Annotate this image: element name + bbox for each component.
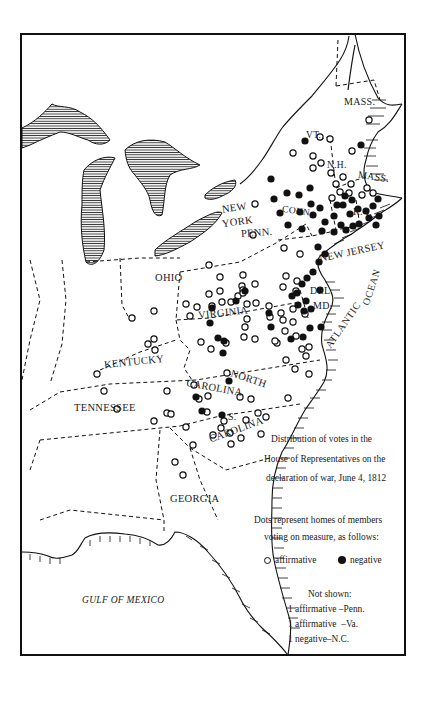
affirmative-vote-dot [359, 192, 365, 198]
negative-vote-dot [375, 212, 382, 219]
affirmative-vote-dot [219, 299, 225, 305]
affirmative-vote-dot [206, 262, 212, 268]
affirmative-vote-dot [283, 273, 289, 279]
label-vt: VT. [306, 131, 321, 141]
affirmative-vote-dot [297, 251, 303, 257]
affirmative-vote-dot [290, 319, 296, 325]
affirmative-vote-dot [248, 396, 254, 402]
affirmative-vote-dot [310, 165, 316, 171]
affirmative-vote-dot [172, 459, 178, 465]
legend-affirmative-label: affirmative [275, 555, 316, 565]
affirmative-vote-dot [238, 435, 244, 441]
legend-affirmative: affirmative [264, 555, 316, 565]
label-gulf-of-mexico: GULF OF MEXICO [82, 595, 164, 605]
negative-vote-dot [299, 333, 306, 340]
affirmative-vote-dot [244, 316, 250, 322]
affirmative-vote-dot [217, 288, 223, 294]
affirmative-vote-dot [198, 339, 204, 345]
label-mass-north: MASS. [344, 97, 375, 107]
affirmative-vote-dot [205, 393, 211, 399]
not-shown-item-3: 1 negative–N.C. [288, 634, 349, 644]
affirmative-vote-dot [306, 371, 312, 377]
caption-line-2: House of Representatives on the [264, 454, 385, 464]
caption-line-1: Distribution of votes in the [271, 434, 372, 444]
negative-vote-dot [298, 225, 305, 232]
affirmative-vote-dot [228, 441, 234, 447]
affirmative-vote-dot [318, 160, 324, 166]
affirmative-vote-dot [306, 344, 312, 350]
affirmative-vote-dot [94, 371, 100, 377]
not-shown-item-1: 1 affirmative –Penn. [288, 604, 365, 614]
negative-vote-dot [357, 141, 364, 148]
affirmative-vote-dot [206, 291, 212, 297]
affirmative-vote-dot [164, 388, 170, 394]
label-georgia: GEORGIA [170, 494, 219, 505]
not-shown-item-2: 1 affirmative –Va. [288, 619, 358, 629]
negative-vote-dot [330, 228, 337, 235]
legend-negative-label: negative [350, 555, 382, 565]
negative-vote-dot [198, 407, 205, 414]
legend-negative: negative [338, 555, 382, 565]
affirmative-vote-dot [278, 310, 284, 316]
negative-vote-dot [206, 319, 213, 326]
negative-vote-dot [303, 274, 310, 281]
negative-vote-dot [316, 204, 323, 211]
affirmative-vote-dot [349, 148, 355, 154]
affirmative-vote-dot [266, 303, 272, 309]
affirmative-vote-dot [252, 201, 258, 207]
label-ri: R. I. [353, 207, 372, 217]
open-circle-icon [264, 557, 271, 564]
negative-vote-dot [298, 280, 305, 287]
affirmative-vote-dot [180, 472, 186, 478]
negative-vote-dot [267, 175, 274, 182]
caption-line-3: declaration of war, June 4, 1812 [266, 473, 386, 483]
negative-vote-dot [232, 297, 239, 304]
affirmative-vote-dot [303, 353, 309, 359]
affirmative-vote-dot [263, 414, 269, 420]
affirmative-vote-dot [285, 395, 291, 401]
affirmative-vote-dot [328, 170, 334, 176]
negative-vote-dot [341, 192, 348, 199]
negative-vote-dot [339, 201, 346, 208]
affirmative-vote-dot [310, 153, 316, 159]
affirmative-vote-dot [281, 245, 287, 251]
negative-vote-dot [330, 212, 337, 219]
negative-vote-dot [355, 220, 362, 227]
affirmative-vote-dot [183, 301, 189, 307]
affirmative-vote-dot [299, 346, 305, 352]
negative-vote-dot [372, 221, 379, 228]
affirmative-vote-dot [221, 418, 227, 424]
affirmative-vote-dot [208, 346, 214, 352]
affirmative-vote-dot [253, 300, 259, 306]
legend-intro-2: voting on measure, as follows: [264, 532, 379, 542]
affirmative-vote-dot [348, 181, 354, 187]
label-ohio: OHIO [155, 273, 182, 284]
negative-vote-dot [321, 218, 328, 225]
affirmative-vote-dot [292, 366, 298, 372]
affirmative-vote-dot [187, 313, 193, 319]
affirmative-vote-dot [151, 308, 157, 314]
filled-circle-icon [338, 556, 346, 564]
negative-vote-dot [302, 297, 309, 304]
label-tennessee: TENNESSEE [74, 403, 136, 414]
affirmative-vote-dot [272, 338, 278, 344]
negative-vote-dot [241, 287, 248, 294]
affirmative-vote-dot [217, 274, 223, 280]
affirmative-vote-dot [340, 174, 346, 180]
label-penn: PENN. [241, 227, 273, 240]
negative-vote-dot [267, 323, 274, 330]
legend-intro-1: Dots represent homes of members [254, 515, 382, 525]
negative-vote-dot [294, 301, 301, 308]
negative-vote-dot [192, 393, 199, 400]
not-shown-title: Not shown: [308, 589, 352, 599]
negative-vote-dot [270, 195, 277, 202]
affirmative-vote-dot [152, 347, 158, 353]
affirmative-vote-dot [168, 411, 174, 417]
negative-vote-dot [309, 268, 316, 275]
negative-vote-dot [318, 227, 325, 234]
great-lakes [22, 104, 236, 264]
affirmative-vote-dot [240, 272, 246, 278]
affirmative-vote-dot [290, 150, 296, 156]
affirmative-vote-dot [242, 324, 248, 330]
negative-vote-dot [220, 337, 227, 344]
